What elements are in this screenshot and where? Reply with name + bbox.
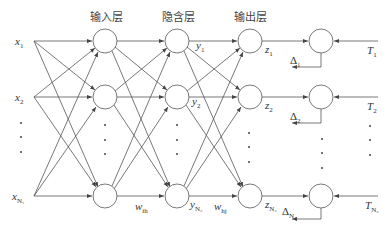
input-label-x1: x1 [15, 36, 23, 50]
hidden-output-connections [184, 41, 243, 196]
hidden-label-y2: y2 [192, 96, 200, 110]
hidden-layer-title: 隐含层 [162, 12, 195, 23]
error-label-deltan3: ΔN₃ [282, 206, 297, 220]
network-diagram [0, 0, 392, 229]
target-label-t2: T2 [367, 101, 377, 115]
target-label-tn3: TN₃ [365, 200, 379, 214]
input-label-x2: x2 [15, 92, 23, 106]
input-label-xn1: xN₁ [12, 191, 24, 205]
error-label-delta1: Δ1 [290, 55, 301, 69]
output-label-zn3: zN₃ [265, 199, 277, 213]
weight-label-whj: whj [214, 201, 227, 215]
output-layer-title: 输出层 [234, 12, 267, 23]
input-hidden-connections [112, 41, 170, 196]
hidden-label-y1: y1 [196, 40, 204, 54]
weight-label-wih: wih [135, 201, 148, 215]
target-connections [334, 41, 378, 196]
output-label-z1: z1 [265, 44, 273, 58]
output-comparator-connections [262, 41, 308, 196]
input-connections [34, 41, 98, 196]
output-label-z2: z2 [265, 100, 273, 114]
error-label-delta2: Δ2 [290, 111, 301, 125]
hidden-label-yn2: yN₂ [190, 199, 202, 213]
input-layer-title: 输入层 [90, 12, 123, 23]
target-label-t1: T1 [367, 45, 377, 59]
